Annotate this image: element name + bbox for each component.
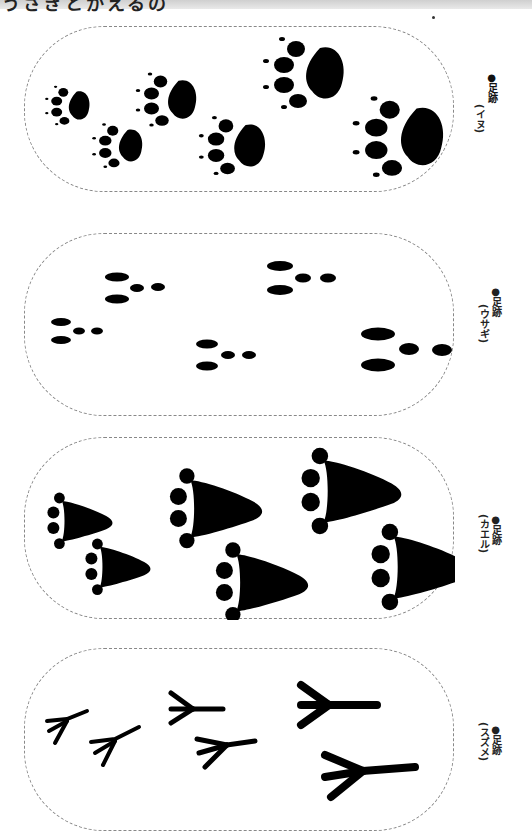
footprint-card-sparrow [24,648,454,831]
footprint-card-rabbit [24,233,454,416]
page-title: うさぎとかえるの [2,0,169,15]
sparrow-prints-icon [25,649,455,832]
label-sparrow-name: (スズメ) [478,722,489,761]
rabbit-prints-icon [25,234,455,417]
label-dog: ●足跡 [486,72,497,103]
label-frog: ●足跡 [490,514,501,545]
label-rabbit: ●足跡 [490,286,501,317]
footprint-card-dog [24,26,454,192]
label-dog-name: (イヌ) [474,104,485,133]
label-rabbit-name: (ウサギ) [478,304,489,343]
print-speck [432,16,435,19]
header-strip: うさぎとかえるの [0,0,532,9]
frog-prints-icon [25,438,455,620]
footprint-card-frog [24,437,454,619]
label-frog-name: (カエル) [478,514,489,553]
label-sparrow: ●足跡 [490,724,501,755]
dog-paw-prints-icon [25,27,455,193]
